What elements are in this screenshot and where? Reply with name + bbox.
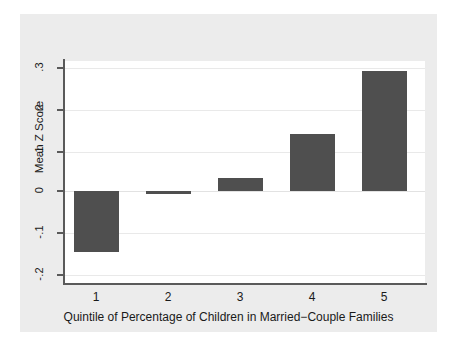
bar-quintile-2 (146, 191, 191, 194)
y-tick-mark--0.1 (57, 232, 63, 234)
gridline-0.3 (64, 68, 425, 69)
y-tick-label--0.1: -.1 (33, 217, 45, 247)
chart-screenshot: .3 .2 .1 0 -.1 -.2 Mean Z Score 1 2 3 4 … (0, 0, 456, 348)
x-tick-label-3: 3 (210, 290, 270, 304)
bar-quintile-4 (290, 134, 335, 191)
plot-area (64, 61, 425, 283)
x-axis-title: Quintile of Percentage of Children in Ma… (20, 310, 437, 324)
y-tick-mark-0 (57, 190, 63, 192)
gridline--0.2 (64, 275, 425, 276)
y-tick-mark--0.2 (57, 274, 63, 276)
bar-quintile-5 (362, 71, 407, 191)
bar-quintile-3 (218, 178, 263, 191)
y-tick-mark-0.2 (57, 109, 63, 111)
bar-quintile-1 (74, 191, 119, 252)
x-axis-line (63, 283, 427, 285)
y-tick-mark-0.1 (57, 151, 63, 153)
y-axis-line (63, 59, 65, 285)
y-axis-title: Mean Z Score (33, 87, 45, 187)
x-tick-label-4: 4 (282, 290, 342, 304)
graph-region: .3 .2 .1 0 -.1 -.2 Mean Z Score 1 2 3 4 … (20, 14, 437, 332)
x-tick-label-5: 5 (354, 290, 414, 304)
y-tick-label-0.3: .3 (33, 52, 45, 82)
x-tick-label-1: 1 (66, 290, 126, 304)
x-tick-label-2: 2 (138, 290, 198, 304)
y-tick-mark-0.3 (57, 67, 63, 69)
y-tick-label--0.2: -.2 (33, 259, 45, 289)
